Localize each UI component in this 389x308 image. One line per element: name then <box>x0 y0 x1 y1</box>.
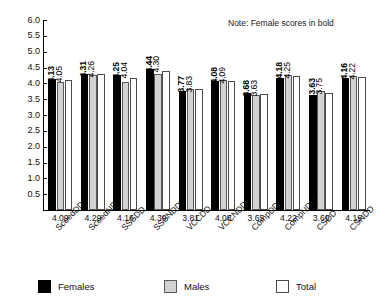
y-axis-tick-label-wrap: 6.0 <box>12 16 40 25</box>
grouped-bar-chart: Note: Female scores in bold 0.51.01.52.0… <box>0 0 389 308</box>
bar-females <box>48 79 56 210</box>
bar-value-label-males: 4.30 <box>153 56 162 73</box>
bar-group <box>207 20 240 210</box>
y-axis-tick-label: 5.5 <box>16 31 40 40</box>
bar-group <box>142 20 175 210</box>
bar-group <box>44 20 77 210</box>
bar-value-label-males: 4.05 <box>55 66 64 83</box>
x-axis-category-labels: ScoedDDScoedNDDSSSDDSSSNDDVCCDDVCCNDDCom… <box>44 226 370 272</box>
bar-females <box>342 78 350 210</box>
bar-males <box>89 75 97 210</box>
bar-value-label-males: 4.09 <box>218 67 227 84</box>
bar-value-label-males: 4.26 <box>88 60 97 77</box>
y-axis-tick-label: 3.5 <box>16 95 40 104</box>
y-axis-tick-label: 1.0 <box>16 174 40 183</box>
y-axis-tick-label-wrap: 4.5 <box>12 63 40 72</box>
legend-item-males: Males <box>164 278 209 294</box>
y-axis-tick-label-wrap: 2.5 <box>12 126 40 135</box>
bar-males <box>57 82 65 210</box>
plot-area: 4.134.054.314.264.254.044.444.303.773.83… <box>44 20 370 210</box>
legend-swatch-males <box>164 280 177 293</box>
y-axis-tick-label-wrap: 4.0 <box>12 79 40 88</box>
legend-swatch-females <box>38 280 51 293</box>
y-axis-tick-label: 4.0 <box>16 79 40 88</box>
y-axis-tick-label-wrap: 3.0 <box>12 111 40 120</box>
bar-females <box>309 95 317 210</box>
bar-group <box>174 20 207 210</box>
bar-males <box>350 76 358 210</box>
y-axis-tick-label: 5.0 <box>16 47 40 56</box>
bar-total <box>195 89 203 210</box>
bar-group <box>109 20 142 210</box>
bar-value-label-males: 4.25 <box>283 62 292 79</box>
legend-label-total: Total <box>296 281 316 292</box>
bar-females <box>244 93 252 210</box>
bar-total <box>358 77 366 210</box>
bar-total <box>65 80 73 210</box>
y-axis-tick-label-wrap: 3.5 <box>12 95 40 104</box>
bar-females <box>81 74 89 210</box>
bar-group <box>337 20 370 210</box>
bar-value-label-males: 4.22 <box>348 63 357 80</box>
bar-value-label-males: 3.75 <box>316 78 325 95</box>
bar-total <box>325 93 333 210</box>
y-axis-tick-label-wrap: 0.5 <box>12 190 40 199</box>
bar-total <box>260 94 268 210</box>
legend-item-females: Females <box>38 278 94 294</box>
y-axis-tick-label: 3.0 <box>16 111 40 120</box>
bar-males <box>187 89 195 210</box>
y-axis-tick-label-wrap: 1.0 <box>12 174 40 183</box>
bar-males <box>317 91 325 210</box>
bar-total <box>97 74 105 210</box>
y-axis-tick-label: 6.0 <box>16 16 40 25</box>
bar-males <box>122 82 130 210</box>
bar-females <box>113 75 121 210</box>
bar-females <box>179 91 187 210</box>
bar-total <box>130 78 138 210</box>
y-axis-tick-label: 2.5 <box>16 126 40 135</box>
y-axis-tick-label-wrap: 5.5 <box>12 31 40 40</box>
bar-group <box>272 20 305 210</box>
bar-females <box>211 81 219 210</box>
y-axis-tick-label: 0.5 <box>16 190 40 199</box>
y-axis-tick-label-wrap: 2.0 <box>12 142 40 151</box>
bar-group <box>77 20 110 210</box>
legend-label-males: Males <box>184 281 209 292</box>
y-axis-tick-label: 2.0 <box>16 142 40 151</box>
bar-value-label-males: 3.63 <box>251 80 260 97</box>
bar-total <box>293 76 301 210</box>
bar-total <box>162 71 170 210</box>
legend-item-total: Total <box>276 278 316 294</box>
bar-total <box>228 81 236 210</box>
legend-swatch-total <box>276 280 289 293</box>
y-axis-tick-label-wrap: 1.5 <box>12 158 40 167</box>
bar-males <box>154 74 162 210</box>
bar-males <box>252 95 260 210</box>
chart-legend: FemalesMalesTotal <box>38 278 368 298</box>
y-axis-tick-label: 4.5 <box>16 63 40 72</box>
bar-group <box>240 20 273 210</box>
bar-males <box>285 75 293 210</box>
bar-value-label-males: 3.83 <box>185 76 194 93</box>
bar-females <box>276 78 284 210</box>
y-axis-tick-label-wrap: 5.0 <box>12 47 40 56</box>
bar-females <box>146 69 154 210</box>
y-axis-tick-label: 1.5 <box>16 158 40 167</box>
bar-males <box>220 80 228 210</box>
bar-value-label-males: 4.04 <box>120 62 129 79</box>
legend-label-females: Females <box>58 281 94 292</box>
bar-group <box>305 20 338 210</box>
